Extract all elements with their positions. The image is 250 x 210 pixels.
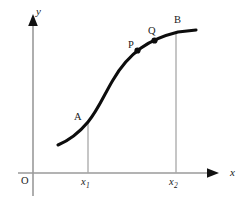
diagram-canvas xyxy=(0,0,250,210)
x-axis-label: x xyxy=(230,167,235,178)
point-label-q: Q xyxy=(148,26,156,37)
x-tick-label-x2: x2 xyxy=(169,177,177,188)
point-label-p: P xyxy=(128,40,134,51)
point-marker-q xyxy=(151,37,157,43)
curve-diagram-figure: y x O x1 x2 A P Q B xyxy=(0,0,250,210)
function-curve xyxy=(58,30,196,145)
point-label-a: A xyxy=(74,112,82,123)
x-tick-x1-base: x xyxy=(81,176,86,187)
point-marker-p xyxy=(134,47,140,53)
point-label-b: B xyxy=(174,15,181,26)
x-axis-arrowhead-icon xyxy=(207,168,219,178)
x-tick-label-x1: x1 xyxy=(81,177,89,188)
x-tick-x2-subscript: 2 xyxy=(174,181,178,190)
origin-label: O xyxy=(21,176,29,187)
y-axis-label: y xyxy=(36,6,41,17)
x-tick-x1-subscript: 1 xyxy=(86,181,90,190)
x-tick-x2-base: x xyxy=(169,176,174,187)
